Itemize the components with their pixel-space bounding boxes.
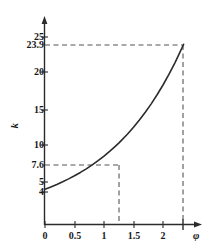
x-tick-label-1: 1 [96, 231, 112, 241]
x-tick-label-1-5: 1.5 [126, 231, 142, 241]
x-tick-label-0: 0 [37, 231, 53, 241]
x-axis [45, 222, 203, 228]
y-tick-label-23-9: 23.9 [27, 40, 45, 50]
x-axis-label: φ [193, 230, 199, 241]
chart-plot-area [0, 0, 207, 249]
y-tick-label-10: 10 [34, 140, 44, 150]
y-tick-label-7-6: 7.6 [32, 160, 45, 170]
y-tick-label-4: 4 [39, 187, 44, 197]
data-curve-k-of-phi [45, 44, 184, 189]
y-axis-label: k [9, 117, 20, 129]
x-tick-label-0-5: 0.5 [67, 231, 83, 241]
chart-figure: 25 23.9 20 15 10 7.6 5 4 0 0.5 1 1.5 2 k… [0, 0, 207, 249]
y-tick-label-15: 15 [34, 105, 44, 115]
y-tick-label-20: 20 [34, 67, 44, 77]
reference-line-high [45, 45, 183, 224]
reference-line-low [45, 165, 119, 224]
x-tick-label-2: 2 [155, 231, 171, 241]
